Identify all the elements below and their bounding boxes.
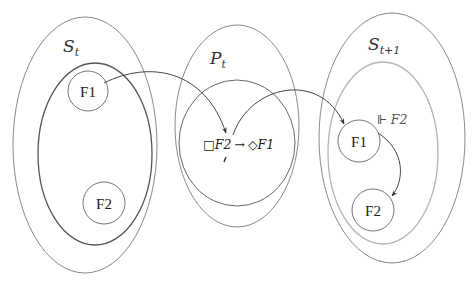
box-operator: □ [203,137,215,152]
satisfaction-label: ⊩F2 [377,112,407,127]
p-t-label: Pt [209,48,226,71]
s-t-label: St [63,36,80,59]
arrow-formula-to-f1-next [233,90,344,135]
set-s-t1: St+1 F1 F2 ⊩F2 [319,13,465,263]
node-right-f2-label: F2 [365,203,381,219]
p-t-formula: □F2→◇F1 [203,137,274,152]
implies-arrow: → [234,137,245,152]
s-t1-label: St+1 [368,34,400,57]
kripke-diagram: St F1 F2 Pt □F2→◇F1 St+1 F1 [0,0,474,283]
node-left-f1: F1 [68,71,108,111]
s-t1-inner-ellipse [328,62,438,244]
node-right-f1: F1 [338,120,380,162]
set-s-t: St F1 F2 [13,17,157,273]
node-right-f1-label: F1 [351,134,367,150]
arrow-f1-to-f2-next [378,133,400,196]
arrow-f1-to-formula [104,72,226,133]
diamond-operator: ◇ [248,137,258,152]
node-left-f2-label: F2 [96,196,112,212]
s-t-outer-ellipse [13,17,157,273]
node-left-f2: F2 [83,182,125,224]
forces-symbol: ⊩ [377,112,388,127]
node-right-f2: F2 [352,189,394,231]
node-left-f1-label: F1 [80,84,96,100]
arrow-formula-tick [224,157,226,162]
